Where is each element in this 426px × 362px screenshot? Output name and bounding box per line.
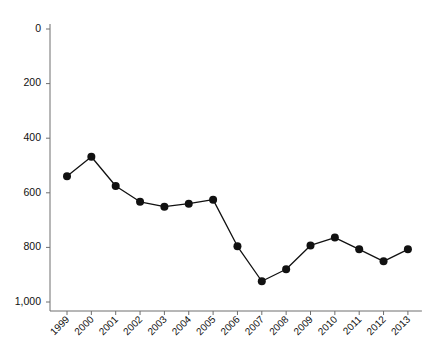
data-series-line: [67, 157, 408, 281]
y-tick-label: 0: [35, 22, 41, 34]
y-axis: 02004006008001,000: [15, 22, 50, 311]
data-point-marker: [355, 245, 363, 253]
x-tick-label: 1999: [48, 313, 72, 337]
x-tick-label: 2006: [218, 313, 242, 337]
figure-caption: [0, 353, 426, 362]
line-chart-plot: 02004006008001,000 199920002001200220032…: [0, 0, 426, 362]
x-tick-label: 2005: [194, 313, 218, 337]
x-tick-label: 2003: [145, 313, 169, 337]
x-tick-label: 2001: [97, 313, 121, 337]
x-tick-label: 2013: [389, 313, 413, 337]
data-point-marker: [233, 242, 241, 250]
y-tick-label: 600: [23, 186, 41, 198]
data-point-marker: [282, 265, 290, 273]
x-tick-label: 2000: [72, 313, 96, 337]
data-point-marker: [63, 172, 71, 180]
y-tick-label: 400: [23, 131, 41, 143]
data-point-marker: [404, 245, 412, 253]
data-point-marker: [112, 182, 120, 190]
chart-figure: 02004006008001,000 199920002001200220032…: [0, 0, 426, 362]
data-point-marker: [185, 200, 193, 208]
data-point-marker: [160, 203, 168, 211]
x-tick-label: 2002: [121, 313, 145, 337]
x-axis: 1999200020012002200320042005200620072008…: [48, 311, 422, 337]
data-point-marker: [209, 196, 217, 204]
data-point-marker: [87, 153, 95, 161]
data-point-marker: [258, 277, 266, 285]
y-tick-label: 1,000: [15, 295, 41, 307]
data-point-marker: [136, 198, 144, 206]
x-tick-label: 2012: [364, 313, 388, 337]
data-point-marker: [380, 257, 388, 265]
data-point-markers: [63, 153, 412, 285]
series-polyline: [67, 157, 408, 281]
data-point-marker: [331, 234, 339, 242]
x-tick-label: 2010: [316, 313, 340, 337]
y-tick-label: 200: [23, 76, 41, 88]
x-tick-label: 2008: [267, 313, 291, 337]
y-tick-label: 800: [23, 240, 41, 252]
x-tick-label: 2007: [243, 313, 267, 337]
data-point-marker: [307, 241, 315, 249]
x-tick-label: 2009: [291, 313, 315, 337]
x-tick-label: 2004: [170, 313, 194, 337]
x-tick-label: 2011: [341, 313, 364, 336]
